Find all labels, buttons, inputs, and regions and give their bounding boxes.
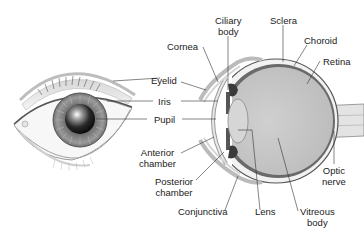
label-posterior-line2: chamber bbox=[155, 187, 193, 198]
front-view-eye bbox=[14, 74, 135, 171]
label-posterior-chamber: Posterior chamber bbox=[155, 176, 193, 198]
label-sclera: Sclera bbox=[270, 15, 297, 26]
label-vitreous-body: Vitreous body bbox=[300, 206, 335, 228]
label-retina: Retina bbox=[323, 56, 350, 67]
label-iris: Iris bbox=[158, 96, 171, 107]
label-cornea: Cornea bbox=[167, 41, 198, 52]
label-posterior-line1: Posterior bbox=[155, 176, 193, 187]
label-ciliary-body-line1: Ciliary bbox=[215, 15, 241, 26]
label-eyelid: Eyelid bbox=[151, 75, 177, 86]
label-conjunctiva: Conjunctiva bbox=[178, 206, 228, 217]
label-choroid: Choroid bbox=[304, 35, 337, 46]
label-anterior-line2: chamber bbox=[139, 158, 176, 169]
label-vitreous-line1: Vitreous bbox=[300, 206, 335, 217]
label-anterior-chamber: Anterior chamber bbox=[139, 147, 176, 169]
label-optic-line1: Optic bbox=[322, 165, 346, 176]
label-optic-nerve: Optic nerve bbox=[322, 165, 346, 187]
label-ciliary-body-line2: body bbox=[215, 26, 241, 37]
label-vitreous-line2: body bbox=[300, 217, 335, 228]
pupil-front bbox=[65, 104, 95, 134]
label-lens: Lens bbox=[255, 206, 276, 217]
label-ciliary-body: Ciliary body bbox=[215, 15, 241, 37]
lens bbox=[228, 99, 248, 143]
label-pupil: Pupil bbox=[154, 114, 175, 125]
label-anterior-line1: Anterior bbox=[139, 147, 176, 158]
label-optic-line2: nerve bbox=[322, 176, 346, 187]
